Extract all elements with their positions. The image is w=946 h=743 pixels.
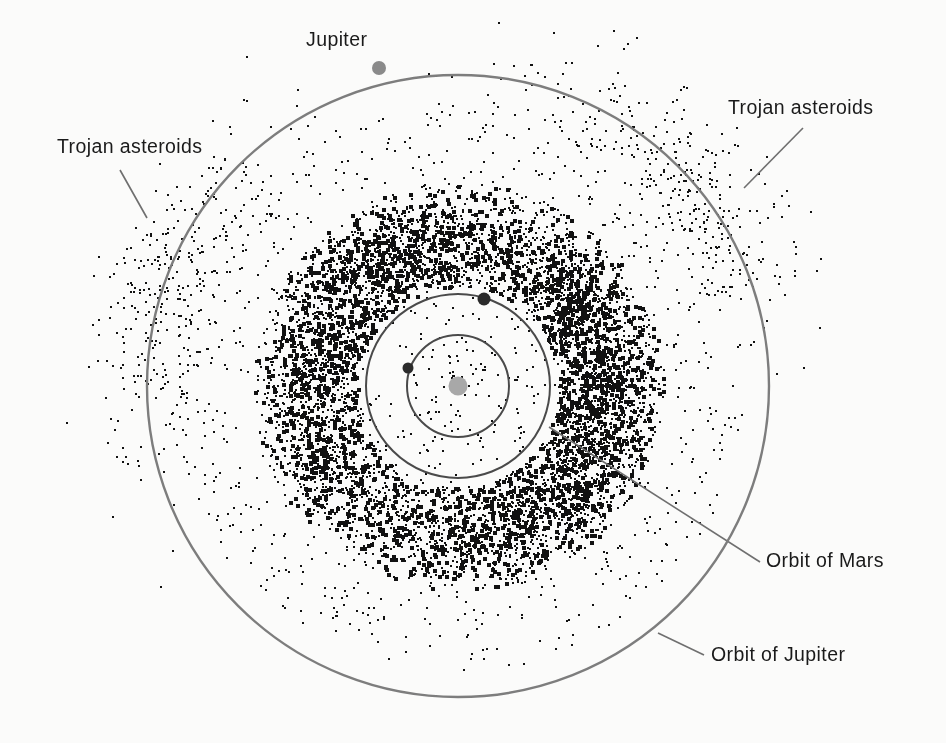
mars-marker xyxy=(478,293,491,306)
label-jupiter: Jupiter xyxy=(306,28,367,51)
jupiter-marker xyxy=(372,61,386,75)
diagram-stage: Jupiter Trojan asteroids Trojan asteroid… xyxy=(0,0,946,743)
leader-line-trojan-right xyxy=(744,128,803,188)
leader-line-trojan-left xyxy=(120,170,147,218)
label-trojan-asteroids-right: Trojan asteroids xyxy=(728,96,874,119)
label-trojan-asteroids-left: Trojan asteroids xyxy=(57,135,203,158)
label-orbit-of-jupiter: Orbit of Jupiter xyxy=(711,643,845,666)
label-orbit-of-mars: Orbit of Mars xyxy=(766,549,884,572)
leader-line-orbit-of-jupiter xyxy=(658,633,704,655)
sun-marker xyxy=(449,377,468,396)
earth-marker xyxy=(403,363,414,374)
